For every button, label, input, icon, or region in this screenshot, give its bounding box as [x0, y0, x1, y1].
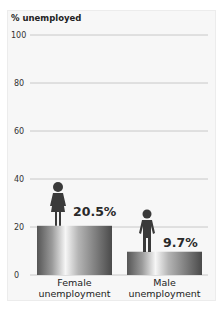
y-axis-label: % unemployed [11, 13, 81, 23]
bar [37, 226, 112, 275]
y-tick-label: 0 [14, 271, 19, 280]
y-tick-label: 40 [14, 175, 24, 184]
data-label: 9.7% [163, 235, 198, 250]
female-figure-icon [50, 182, 66, 226]
x-category-label: Female [57, 277, 92, 288]
x-category-label: Male [153, 277, 176, 288]
bar [127, 252, 202, 275]
data-label: 20.5% [73, 204, 117, 219]
bar-chart: % unemployed 020406080100 20.5%Femaleune… [0, 0, 223, 312]
male-figure-icon [139, 210, 155, 253]
y-tick-label: 60 [14, 127, 24, 136]
x-category-label: unemployment [128, 288, 200, 299]
x-category-label: unemployment [38, 288, 110, 299]
y-tick-label: 80 [14, 79, 24, 88]
y-tick-label: 20 [14, 223, 24, 232]
y-tick-label: 100 [11, 31, 26, 40]
